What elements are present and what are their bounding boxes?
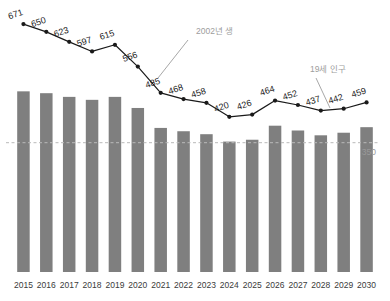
x-axis-tick-2024: 2024 xyxy=(220,280,239,290)
bar-2017 xyxy=(63,97,76,272)
line-point-2016 xyxy=(44,30,48,34)
line-point-2020 xyxy=(136,64,140,68)
population-admission-chart: 350 671650623597615556485468458420426464… xyxy=(0,0,390,301)
annotation-label-1: 2002년 생 xyxy=(196,26,233,36)
x-axis-tick-2026: 2026 xyxy=(266,280,285,290)
bar-2022 xyxy=(177,131,190,272)
x-axis-tick-2022: 2022 xyxy=(174,280,193,290)
bar-2024 xyxy=(223,142,236,272)
x-axis-tick-2030: 2030 xyxy=(357,280,376,290)
bar-2029 xyxy=(337,133,350,272)
line-point-2021 xyxy=(159,91,163,95)
reference-line-label: 350 xyxy=(362,147,376,157)
line-point-2015 xyxy=(21,22,25,26)
x-axis-tick-2016: 2016 xyxy=(37,280,56,290)
bar-2028 xyxy=(315,135,328,272)
x-axis-tick-2025: 2025 xyxy=(243,280,262,290)
line-point-2017 xyxy=(67,40,71,44)
bar-2020 xyxy=(132,108,145,272)
line-point-2030 xyxy=(364,100,368,104)
chart-container: 350 671650623597615556485468458420426464… xyxy=(0,0,390,301)
x-axis-tick-2028: 2028 xyxy=(311,280,330,290)
x-axis-tick-2029: 2029 xyxy=(334,280,353,290)
x-axis-tick-2027: 2027 xyxy=(288,280,307,290)
bar-2026 xyxy=(269,126,282,272)
x-axis-tick-2015: 2015 xyxy=(14,280,33,290)
line-point-2019 xyxy=(113,43,117,47)
chart-background xyxy=(0,0,390,301)
line-point-2022 xyxy=(181,97,185,101)
bar-2025 xyxy=(246,140,259,272)
x-axis-tick-2021: 2021 xyxy=(151,280,170,290)
annotation-label-2: 19세 인구 xyxy=(310,64,346,74)
line-point-2023 xyxy=(204,101,208,105)
line-point-2026 xyxy=(273,98,277,102)
bar-2015 xyxy=(17,91,30,272)
x-axis-tick-2023: 2023 xyxy=(197,280,216,290)
bar-2021 xyxy=(154,128,167,272)
line-point-2028 xyxy=(319,108,323,112)
bar-2016 xyxy=(40,93,53,272)
bar-2018 xyxy=(86,100,99,272)
line-point-2025 xyxy=(250,113,254,117)
bar-2023 xyxy=(200,134,213,272)
line-point-2027 xyxy=(296,103,300,107)
line-point-2018 xyxy=(90,49,94,53)
line-point-2024 xyxy=(227,115,231,119)
bar-2027 xyxy=(292,131,305,273)
x-axis-tick-2018: 2018 xyxy=(83,280,102,290)
line-point-2029 xyxy=(342,107,346,111)
x-axis-tick-2020: 2020 xyxy=(128,280,147,290)
x-axis-tick-2017: 2017 xyxy=(60,280,79,290)
bar-2019 xyxy=(109,97,122,272)
x-axis-tick-2019: 2019 xyxy=(105,280,124,290)
